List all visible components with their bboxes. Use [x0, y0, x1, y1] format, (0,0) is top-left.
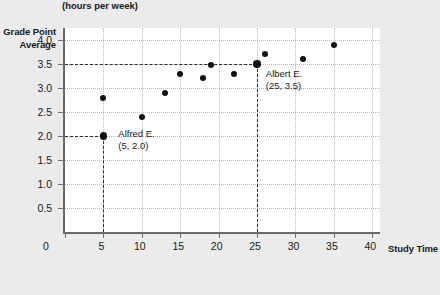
data-point — [331, 42, 337, 48]
y-axis-tick — [58, 112, 65, 113]
origin-tick-label: 0 — [26, 240, 66, 252]
data-point — [262, 51, 268, 57]
point-annotation-albert: Albert E.(25, 3.5) — [266, 68, 302, 92]
plot-area — [63, 28, 380, 234]
gridline-horizontal — [65, 136, 380, 137]
y-axis-tick — [58, 40, 65, 41]
annotation-name: Alfred E. — [118, 128, 154, 140]
data-point — [300, 56, 306, 62]
data-point — [200, 75, 206, 81]
y-axis-tick — [58, 160, 65, 161]
gridline-horizontal — [65, 88, 380, 89]
gridline-horizontal — [65, 112, 380, 113]
reference-line-horizontal — [65, 64, 257, 65]
gridline-vertical — [372, 28, 373, 232]
gridline-horizontal — [65, 208, 380, 209]
y-axis-tick — [58, 208, 65, 209]
x-axis-tick — [334, 232, 335, 238]
data-point — [100, 95, 106, 101]
y-axis-tick-label: 2.5 — [6, 106, 52, 118]
y-axis-tick-label: 3.0 — [6, 82, 52, 94]
y-axis-tick — [58, 88, 65, 89]
x-axis-tick — [295, 232, 296, 238]
y-axis-tick-label: 3.5 — [6, 58, 52, 70]
x-axis-tick-label: 35 — [312, 240, 352, 252]
x-axis-tick — [372, 232, 373, 238]
x-axis-tick — [142, 232, 143, 238]
y-axis-tick-label: 0.5 — [6, 202, 52, 214]
y-axis-tick-label: 4.0 — [6, 34, 52, 46]
point-annotation-alfred: Alfred E.(5, 2.0) — [118, 128, 154, 152]
gridline-horizontal — [65, 184, 380, 185]
scatter-chart: Grade Point Average Study Time (hours pe… — [0, 0, 440, 295]
x-axis-tick-label: 5 — [81, 240, 121, 252]
plot-inner — [65, 28, 380, 232]
reference-line-vertical — [257, 64, 258, 232]
gridline-vertical — [180, 28, 181, 232]
y-axis-tick — [58, 136, 65, 137]
gridline-vertical — [295, 28, 296, 232]
gridline-horizontal — [65, 160, 380, 161]
y-axis-tick-label: 1.0 — [6, 178, 52, 190]
y-axis-tick-label: 2.0 — [6, 130, 52, 142]
y-axis-tick-label: 1.5 — [6, 154, 52, 166]
x-axis-tick — [219, 232, 220, 238]
x-axis-tick-label: 10 — [120, 240, 160, 252]
x-axis-unit-label: (hours per week) — [0, 0, 138, 11]
gridline-vertical — [219, 28, 220, 232]
x-axis-tick — [180, 232, 181, 238]
x-axis-tick — [103, 232, 104, 238]
gridline-vertical — [334, 28, 335, 232]
data-point — [253, 60, 261, 68]
x-axis-tick-label: 15 — [158, 240, 198, 252]
x-axis-tick — [257, 232, 258, 238]
data-point — [208, 62, 214, 68]
annotation-name: Albert E. — [266, 68, 302, 80]
data-point — [177, 71, 183, 77]
x-axis-tick-label: 40 — [350, 240, 390, 252]
reference-line-horizontal — [65, 136, 103, 137]
data-point — [139, 114, 145, 120]
y-axis-tick — [58, 64, 65, 65]
annotation-coordinates: (5, 2.0) — [118, 140, 154, 152]
annotation-coordinates: (25, 3.5) — [266, 80, 302, 92]
data-point — [100, 132, 108, 140]
x-axis-tick — [65, 232, 66, 238]
x-axis-tick-label: 25 — [235, 240, 275, 252]
reference-line-vertical — [103, 136, 104, 232]
y-axis-tick — [58, 184, 65, 185]
data-point — [162, 90, 168, 96]
x-axis-tick-label: 30 — [273, 240, 313, 252]
gridline-horizontal — [65, 40, 380, 41]
x-axis-tick-label: 20 — [197, 240, 237, 252]
data-point — [231, 71, 237, 77]
